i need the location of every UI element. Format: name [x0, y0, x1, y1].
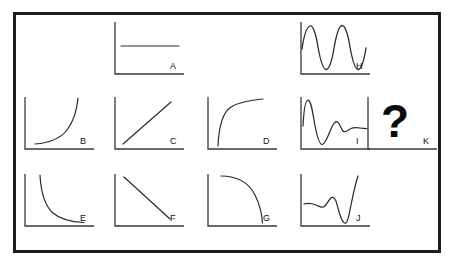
- panel-g[interactable]: G: [205, 171, 279, 233]
- panel-label-k: K: [423, 137, 429, 146]
- panel-grid: A H B C: [16, 15, 438, 250]
- curve-c: [123, 102, 171, 144]
- panel-i[interactable]: I: [298, 94, 372, 156]
- panel-b-plot: [22, 94, 96, 156]
- curve-j: [304, 176, 358, 223]
- panel-c[interactable]: C: [112, 94, 186, 156]
- panel-b[interactable]: B: [22, 94, 96, 156]
- panel-label-g: G: [263, 214, 270, 223]
- panel-h[interactable]: H: [298, 19, 372, 81]
- panel-label-h: H: [356, 62, 363, 71]
- response-curve-chart: A H B C: [0, 0, 457, 267]
- panel-c-plot: [112, 94, 186, 156]
- panel-label-a: A: [170, 62, 176, 71]
- curve-g: [221, 176, 263, 223]
- panel-e-plot: [22, 171, 96, 233]
- panel-label-c: C: [170, 137, 177, 146]
- panel-h-plot: [298, 19, 372, 81]
- panel-g-plot: [205, 171, 279, 233]
- panel-a-plot: [112, 19, 186, 81]
- panel-d[interactable]: D: [205, 94, 279, 156]
- curve-e: [40, 175, 84, 223]
- panel-label-d: D: [263, 137, 270, 146]
- curve-d: [218, 99, 263, 146]
- panel-f[interactable]: F: [112, 171, 186, 233]
- panel-label-f: F: [170, 214, 176, 223]
- panel-j[interactable]: J: [298, 171, 372, 233]
- panel-a[interactable]: A: [112, 19, 186, 81]
- panel-j-plot: [298, 171, 372, 233]
- panel-label-b: B: [80, 137, 86, 146]
- curve-b: [35, 98, 78, 144]
- panel-i-plot: [298, 94, 372, 156]
- panel-label-e: E: [80, 214, 86, 223]
- panel-k[interactable]: ? K: [365, 94, 439, 156]
- question-mark-icon: ?: [381, 98, 409, 144]
- panel-label-i: I: [356, 137, 359, 146]
- panel-e[interactable]: E: [22, 171, 96, 233]
- curve-f: [124, 177, 170, 219]
- panel-label-j: J: [356, 214, 361, 223]
- panel-d-plot: [205, 94, 279, 156]
- panel-f-plot: [112, 171, 186, 233]
